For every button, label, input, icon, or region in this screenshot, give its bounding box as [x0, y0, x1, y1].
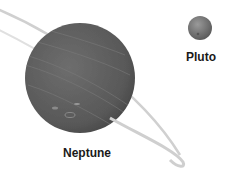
neptune-planet [25, 23, 135, 133]
storm-spot [52, 107, 58, 110]
neptune-label: Neptune [63, 146, 111, 160]
planet-diagram [0, 0, 235, 180]
scooter-cloud [74, 103, 80, 105]
pluto-planet [188, 16, 212, 40]
pluto-label: Pluto [186, 50, 216, 64]
